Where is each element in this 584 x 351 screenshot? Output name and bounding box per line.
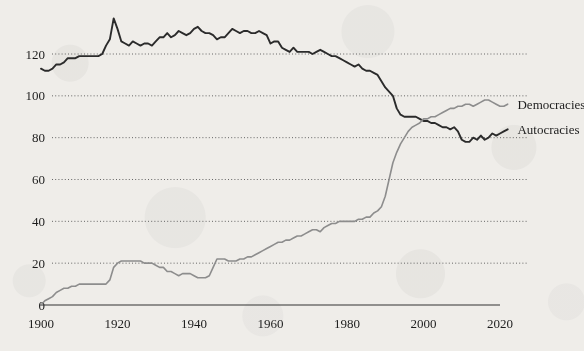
x-tick-label: 2000 (411, 316, 437, 331)
x-tick-label: 2020 (487, 316, 513, 331)
x-tick-label: 1920 (105, 316, 131, 331)
x-tick-label: 1940 (181, 316, 207, 331)
x-tick-label: 1900 (28, 316, 54, 331)
y-tick-label: 20 (32, 256, 45, 271)
y-tick-label: 80 (32, 130, 45, 145)
series-lines-group (41, 18, 508, 305)
x-tick-labels-group: 1900192019401960198020002020 (28, 316, 513, 331)
line-chart: 020406080100120 190019201940196019802000… (0, 0, 584, 351)
y-tick-label: 120 (26, 47, 46, 62)
series-line-democracies (41, 100, 508, 305)
y-tick-label: 100 (26, 88, 46, 103)
series-label-democracies: Democracies (517, 97, 584, 112)
x-tick-label: 1960 (258, 316, 284, 331)
y-tick-labels-group: 020406080100120 (26, 47, 46, 313)
y-tick-label: 60 (32, 172, 45, 187)
x-tick-label: 1980 (334, 316, 360, 331)
chart-root: 020406080100120 190019201940196019802000… (0, 0, 584, 351)
series-line-autocracies (41, 18, 508, 141)
series-legend-labels-group: AutocraciesDemocracies (517, 97, 584, 137)
y-tick-label: 40 (32, 214, 45, 229)
gridlines-group (52, 54, 528, 263)
series-label-autocracies: Autocracies (517, 122, 579, 137)
